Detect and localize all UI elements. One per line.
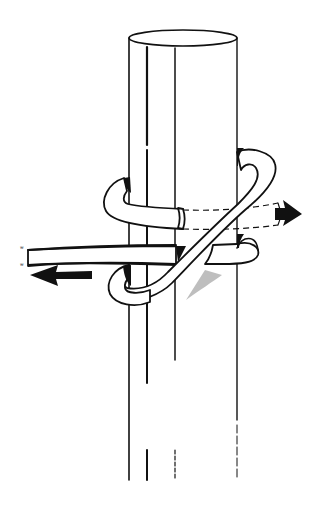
rope-end-mark: ʷ — [20, 245, 24, 253]
pull-arrow-left-icon — [30, 265, 92, 286]
upper-rope-turn — [104, 177, 184, 229]
knot-illustration: Rope knot tied around a vertical pole ʷ — [0, 0, 319, 512]
pole-top-ellipse — [129, 30, 237, 46]
rope-end-mark: ʷ — [20, 262, 24, 270]
rope-cut-end — [178, 208, 185, 229]
knot-diagram: ʷ ʷ — [0, 0, 319, 512]
shadow-hatch — [186, 270, 222, 300]
standing-rope: ʷ ʷ — [20, 245, 176, 270]
